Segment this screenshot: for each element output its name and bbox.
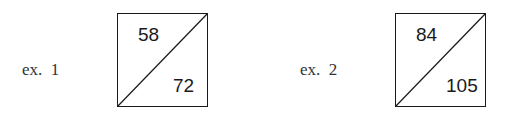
example-1-split-square: 58 72	[117, 13, 208, 107]
example-2-bottom-value: 105	[446, 75, 478, 97]
example-1-top-value: 58	[138, 24, 159, 46]
example-1-bottom-value: 72	[173, 75, 194, 97]
example-1-label: ex. 1	[22, 60, 59, 80]
example-2-label: ex. 2	[300, 60, 337, 80]
example-2-split-square: 84 105	[395, 13, 486, 107]
example-2-top-value: 84	[416, 24, 437, 46]
